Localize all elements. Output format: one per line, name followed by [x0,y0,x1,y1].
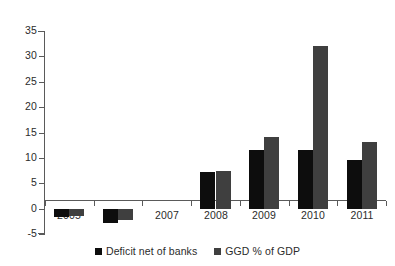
bar-2005-series-1 [69,209,84,216]
y-axis-tick-label: 25 [1,76,37,87]
chart-legend: Deficit net of banksGGD % of GDP [0,245,395,257]
y-axis-tick-label: 30 [1,50,37,61]
x-axis-tick [386,201,387,206]
bar-2011-series-0 [347,160,362,209]
y-axis-tick-label: 0 [1,203,37,214]
y-axis-tick-label: 35 [1,25,37,36]
legend-swatch-icon [214,248,221,255]
bar-2010-series-0 [298,150,313,209]
bar-2008-series-0 [200,172,215,209]
y-axis-tick-label: 10 [1,152,37,163]
bar-2008-series-1 [216,171,231,209]
legend-item[interactable]: Deficit net of banks [95,245,197,257]
y-axis-tick-label: 15 [1,127,37,138]
bar-2010-series-1 [313,46,328,209]
bar-chart: 35302520151050-5 20052006200720082009201… [0,0,395,266]
y-axis-tick-label: 20 [1,101,37,112]
y-axis-tick-label: 5 [1,177,37,188]
bar-2009-series-1 [264,137,279,209]
legend-item[interactable]: GGD % of GDP [214,245,300,257]
legend-swatch-icon [95,248,102,255]
bar-2006-series-0 [103,209,118,223]
y-axis-tick-label: -5 [1,228,37,239]
legend-label: Deficit net of banks [106,245,197,257]
bar-2005-series-0 [54,209,69,217]
y-axis-tick [39,234,45,235]
bar-2009-series-0 [249,150,264,209]
bar-2011-series-1 [362,142,377,209]
plot-area [45,31,386,234]
legend-label: GGD % of GDP [225,245,300,257]
bar-2006-series-1 [118,209,133,220]
